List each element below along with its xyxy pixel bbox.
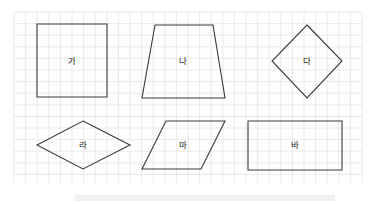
footer-bar — [75, 195, 335, 201]
shape-na: 나 — [142, 25, 225, 98]
shape-da: 다 — [272, 25, 342, 98]
shape-label: 다 — [303, 56, 311, 66]
shape-label: 라 — [79, 140, 87, 150]
shapes-diagram: 가나다라마바 — [0, 0, 375, 204]
shape-label: 나 — [179, 56, 187, 66]
shape-label: 가 — [68, 56, 76, 66]
shape-group: 가나다라마바 — [37, 24, 342, 170]
shape-label: 마 — [179, 140, 187, 150]
shape-label: 바 — [291, 140, 299, 150]
